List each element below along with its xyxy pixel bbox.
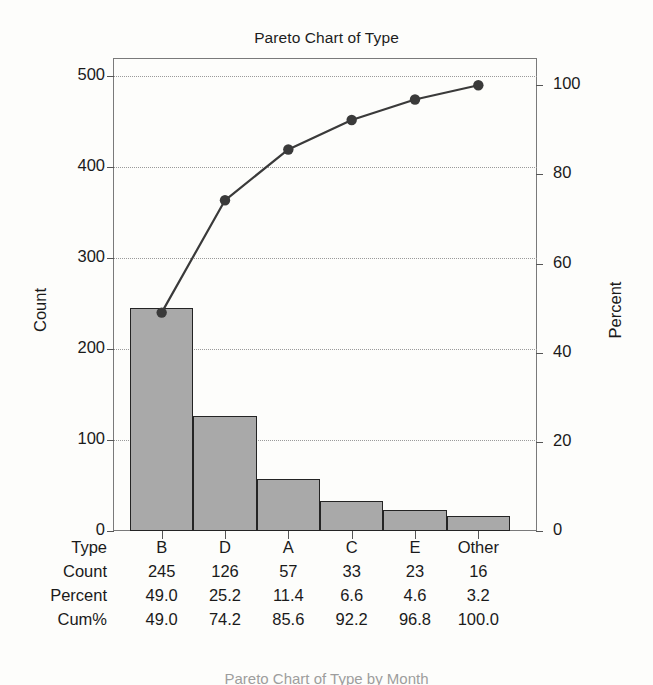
- table-cell: 100.0: [438, 610, 518, 629]
- y-tick-mark-left: [107, 349, 114, 350]
- y-tick-mark-left: [107, 167, 114, 168]
- y-tick-label-percent-40: 40: [553, 342, 613, 361]
- table-row-label-count: Count: [0, 562, 107, 581]
- table-row: Percent49.025.211.46.64.63.2: [0, 586, 653, 610]
- y-tick-label-count-300: 300: [45, 247, 105, 266]
- y-tick-label-percent-80: 80: [553, 163, 613, 182]
- bar-a: [257, 479, 320, 531]
- y-tick-label-count-400: 400: [45, 156, 105, 175]
- bar-other: [447, 516, 510, 531]
- table-cell: 3.2: [438, 586, 518, 605]
- y-tick-label-count-200: 200: [45, 338, 105, 357]
- chart-title: Pareto Chart of Type: [0, 29, 653, 47]
- y-tick-mark-left: [107, 76, 114, 77]
- table-row: TypeBDACEOther: [0, 538, 653, 562]
- table-row-label-type: Type: [0, 538, 107, 557]
- pareto-chart-figure: Pareto Chart of Type 0100200300400500020…: [0, 0, 653, 685]
- table-row-label-cum: Cum%: [0, 610, 107, 629]
- bar-e: [383, 510, 446, 531]
- bar-c: [320, 501, 383, 531]
- table-cell: Other: [438, 538, 518, 557]
- table-cell: 16: [438, 562, 518, 581]
- table-row: Count24512657332316: [0, 562, 653, 586]
- next-figure-caption: Pareto Chart of Type by Month: [0, 670, 653, 685]
- y-tick-mark-right: [536, 442, 543, 443]
- y-tick-mark-left: [107, 531, 114, 532]
- y-tick-mark-left: [107, 440, 114, 441]
- y-tick-mark-right: [536, 174, 543, 175]
- y-axis-title-percent: Percent: [606, 282, 625, 339]
- y-axis-title-count: Count: [31, 288, 50, 332]
- y-tick-mark-right: [536, 353, 543, 354]
- y-tick-label-count-500: 500: [45, 65, 105, 84]
- table-row-label-percent: Percent: [0, 586, 107, 605]
- y-tick-mark-right: [536, 531, 543, 532]
- y-tick-label-percent-20: 20: [553, 431, 613, 450]
- y-tick-label-count-100: 100: [45, 429, 105, 448]
- bars-layer: [113, 58, 537, 531]
- y-tick-mark-left: [107, 258, 114, 259]
- y-tick-label-count-0: 0: [45, 520, 105, 539]
- y-tick-mark-right: [536, 85, 543, 86]
- y-tick-label-percent-60: 60: [553, 253, 613, 272]
- y-tick-mark-right: [536, 264, 543, 265]
- table-row: Cum%49.074.285.692.296.8100.0: [0, 610, 653, 634]
- bar-d: [193, 416, 256, 531]
- bar-b: [130, 308, 193, 531]
- y-tick-label-percent-0: 0: [553, 520, 613, 539]
- y-tick-label-percent-100: 100: [553, 74, 613, 93]
